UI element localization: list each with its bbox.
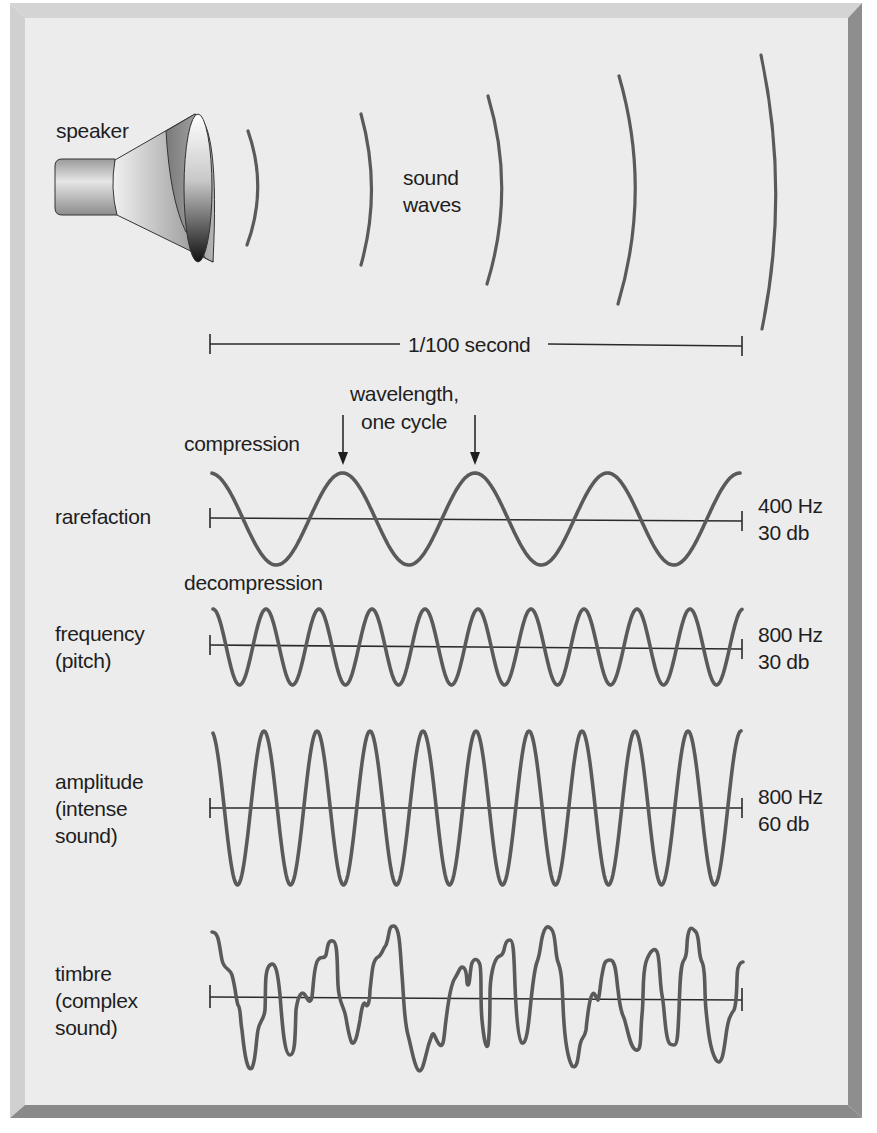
sound-waves-label-line1: sound [403,164,459,191]
waveform-800hz-30db [213,609,742,685]
row-label-rarefaction: rarefaction [55,503,151,530]
wavelength-label-line1: wavelength, [350,380,459,407]
compression-label: compression [184,430,300,457]
row-level-amplitude: 60 db [758,810,809,837]
row-label-amplitude-line1: amplitude [55,768,143,795]
sound-waves-label-line2: waves [403,191,461,218]
row-label-frequency-line2: (pitch) [55,647,111,674]
speaker-label: speaker [56,117,129,144]
row-freq-frequency: 800 Hz [758,621,823,648]
time-scale-label: 1/100 second [408,331,531,358]
waveform-timbre-complex [212,926,743,1071]
waveform-800hz-60db [213,731,741,885]
row-label-timbre-line1: timbre [55,960,112,987]
row-level-rarefaction: 30 db [758,519,809,546]
row-label-amplitude-line2: (intense [55,795,127,822]
row-freq-amplitude: 800 Hz [758,783,823,810]
row-label-timbre-line2: (complex [55,987,138,1014]
decompression-label: decompression [184,569,323,596]
row-label-frequency-line1: frequency [55,620,145,647]
waveform-400hz-30db [212,473,740,565]
row-label-amplitude-line3: sound) [55,822,117,849]
row-freq-rarefaction: 400 Hz [758,492,823,519]
wavelength-label-line2: one cycle [361,408,447,435]
row-label-timbre-line3: sound) [55,1014,117,1041]
row-level-frequency: 30 db [758,648,809,675]
